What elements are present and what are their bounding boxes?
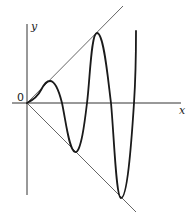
x-axis-label: x: [179, 104, 186, 117]
diagram-canvas: y x 0: [0, 0, 195, 220]
oscillating-curve: [27, 31, 136, 198]
diagram-figure: y x 0: [0, 0, 195, 220]
origin-label: 0: [17, 91, 24, 104]
y-axis-label: y: [30, 20, 38, 33]
